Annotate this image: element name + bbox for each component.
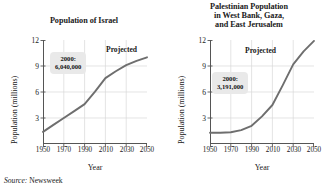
x-tick-label: 2050 <box>134 146 160 154</box>
chart-title-line: and East Jerusalem <box>168 20 330 29</box>
y-tick-label: 6 <box>23 88 39 97</box>
y-tick-label: 9 <box>23 62 39 71</box>
y-tick-label: 12 <box>190 36 206 45</box>
chart-panel-palestinian: Palestinian Population in West Bank, Gaz… <box>168 0 330 175</box>
callout-palestinian-2000: 2000: 3,191,000 <box>212 72 248 94</box>
source-name: Newsweek <box>29 176 62 185</box>
chart-title-israel: Population of Israel <box>0 16 168 25</box>
source-prefix: Source: <box>4 176 27 185</box>
callout-value: 6,040,000 <box>55 63 81 71</box>
y-tick-label: 12 <box>23 36 39 45</box>
callout-year: 2000: <box>217 75 243 83</box>
y-axis-label-palestinian: Population (millions) <box>177 76 186 144</box>
callout-israel-2000: 2000: 6,040,000 <box>50 52 86 74</box>
y-tick-label: 6 <box>190 88 206 97</box>
y-tick-label: 3 <box>190 114 206 123</box>
x-axis-label-palestinian: Year <box>210 163 314 172</box>
y-axis-label-israel: Population (millions) <box>10 76 19 144</box>
x-tick-label: 2050 <box>301 146 327 154</box>
figure-two-population-charts: Population of Israel Population (million… <box>0 0 330 192</box>
chart-title-palestinian: Palestinian Population in West Bank, Gaz… <box>168 2 330 30</box>
y-tick-label: 3 <box>23 114 39 123</box>
source-note: Source: Newsweek <box>4 176 63 185</box>
callout-value: 3,191,000 <box>217 83 243 91</box>
chart-title-line: in West Bank, Gaza, <box>168 11 330 20</box>
x-axis-label-israel: Year <box>43 163 147 172</box>
projected-label-israel: Projected <box>106 45 137 54</box>
chart-title-line: Palestinian Population <box>168 2 330 11</box>
y-tick-label: 9 <box>190 62 206 71</box>
callout-year: 2000: <box>55 55 81 63</box>
chart-panel-israel: Population of Israel Population (million… <box>0 0 168 175</box>
chart-title-line: Population of Israel <box>0 16 168 25</box>
projected-label-palestinian: Projected <box>245 46 276 55</box>
